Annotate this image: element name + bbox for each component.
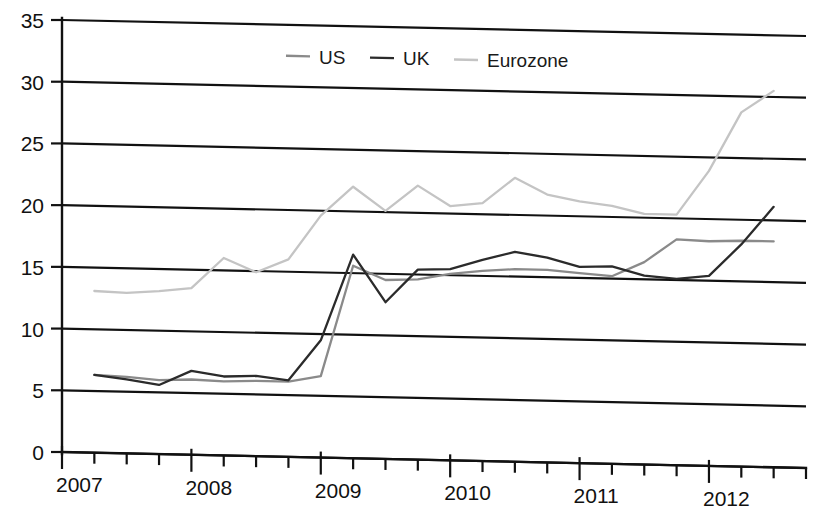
x-tick-label-2011: 2011 xyxy=(574,484,619,507)
grid-line-20 xyxy=(62,205,806,221)
grid-lines xyxy=(62,20,806,468)
x-tick-label-2010: 2010 xyxy=(444,481,491,504)
series-line-us xyxy=(94,239,773,381)
grid-line-5 xyxy=(62,390,806,406)
y-tick-label-5: 5 xyxy=(32,379,44,402)
grid-line-25 xyxy=(62,143,806,159)
x-tick-label-2008: 2008 xyxy=(185,476,232,499)
y-tick-label-25: 25 xyxy=(21,132,44,155)
legend-label-eurozone: Eurozone xyxy=(487,50,568,71)
legend-swatch-eurozone xyxy=(454,59,478,60)
x-axis-tick-labels: 200720082009201020112012 xyxy=(56,473,750,510)
axes xyxy=(51,18,806,468)
x-tick-label-2012: 2012 xyxy=(703,487,750,510)
y-tick-label-20: 20 xyxy=(21,194,44,217)
x-tick-label-2007: 2007 xyxy=(56,473,103,496)
y-tick-label-15: 15 xyxy=(21,256,44,279)
chart-legend: USUKEurozone xyxy=(286,47,568,72)
grid-line-30 xyxy=(62,82,806,98)
grid-line-35 xyxy=(62,20,806,36)
grid-line-10 xyxy=(62,329,806,345)
series-line-uk xyxy=(94,207,773,385)
y-axis-tick-labels: 05101520253035 xyxy=(21,9,44,464)
line-chart: 05101520253035 200720082009201020112012 … xyxy=(0,0,817,516)
legend-swatch-us xyxy=(286,56,310,57)
legend-label-uk: UK xyxy=(403,48,430,69)
series-line-eurozone xyxy=(94,91,773,293)
y-tick-label-10: 10 xyxy=(21,318,44,341)
legend-swatch-uk xyxy=(370,58,394,59)
y-tick-label-30: 30 xyxy=(21,71,44,94)
y-tick-label-0: 0 xyxy=(32,441,44,464)
y-tick-label-35: 35 xyxy=(21,9,44,32)
x-tick-label-2009: 2009 xyxy=(315,479,362,502)
x-axis xyxy=(62,452,806,468)
legend-label-us: US xyxy=(319,47,345,68)
chart-container: 05101520253035 200720082009201020112012 … xyxy=(0,0,817,516)
